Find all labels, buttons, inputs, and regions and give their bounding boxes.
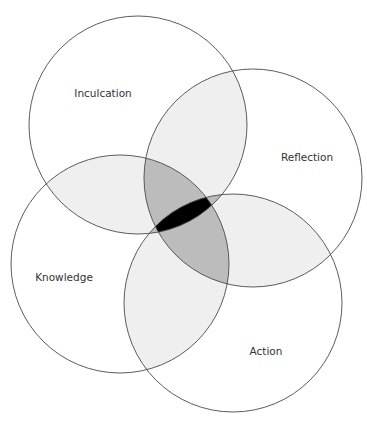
label-knowledge: Knowledge bbox=[35, 271, 93, 283]
label-inculcation: Inculcation bbox=[74, 87, 131, 99]
venn-diagram bbox=[0, 0, 367, 422]
label-reflection: Reflection bbox=[281, 151, 333, 163]
label-action: Action bbox=[250, 345, 283, 357]
